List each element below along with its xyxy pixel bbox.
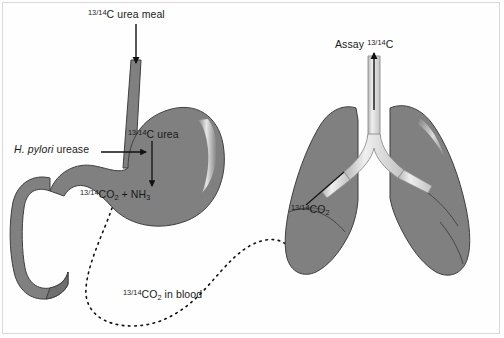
- label-assay: Assay 13/14C: [335, 38, 393, 50]
- label-c-urea: 13/14C urea: [128, 128, 179, 140]
- diagram-canvas: 13/14C urea meal H. pylori urease 13/14C…: [0, 0, 504, 338]
- blood-path: [86, 208, 300, 326]
- plus-nh-text: + NH: [119, 188, 147, 200]
- co2-text: CO: [142, 288, 158, 300]
- element-symbol: C: [386, 38, 394, 50]
- isotope-superscript: 13/14: [128, 128, 147, 137]
- left-lung: [285, 107, 358, 275]
- nh3-subscript: 3: [146, 193, 150, 202]
- co2-text: CO: [310, 203, 326, 215]
- label-co2-lung: 13/14CO2: [291, 203, 330, 217]
- label-co2-in-blood: 13/14CO2 in blood: [123, 288, 202, 302]
- label-urea-meal: 13/14C urea meal: [88, 8, 165, 20]
- stomach-group: [10, 24, 224, 299]
- label-hpylori-urease: H. pylori urease: [14, 143, 89, 155]
- isotope-superscript: 13/14: [367, 38, 386, 47]
- co2-text: CO: [99, 188, 115, 200]
- label-text: C urea meal: [107, 8, 165, 20]
- isotope-superscript: 13/14: [88, 8, 107, 17]
- duodenum: [10, 177, 68, 299]
- lungs-group: [285, 53, 470, 275]
- isotope-superscript: 13/14: [80, 188, 99, 197]
- co2-subscript: 2: [325, 208, 329, 217]
- isotope-superscript: 13/14: [123, 288, 142, 297]
- label-text: Assay: [335, 38, 367, 50]
- duodenum-cut-end: [46, 272, 68, 299]
- diagram-artwork: [0, 0, 504, 338]
- enzyme-name: urease: [56, 143, 89, 155]
- label-co2-nh3: 13/14CO2 + NH3: [80, 188, 150, 202]
- isotope-superscript: 13/14: [291, 203, 310, 212]
- label-text: in blood: [162, 288, 203, 300]
- label-text: C urea: [147, 128, 179, 140]
- species-name: H. pylori: [14, 143, 53, 155]
